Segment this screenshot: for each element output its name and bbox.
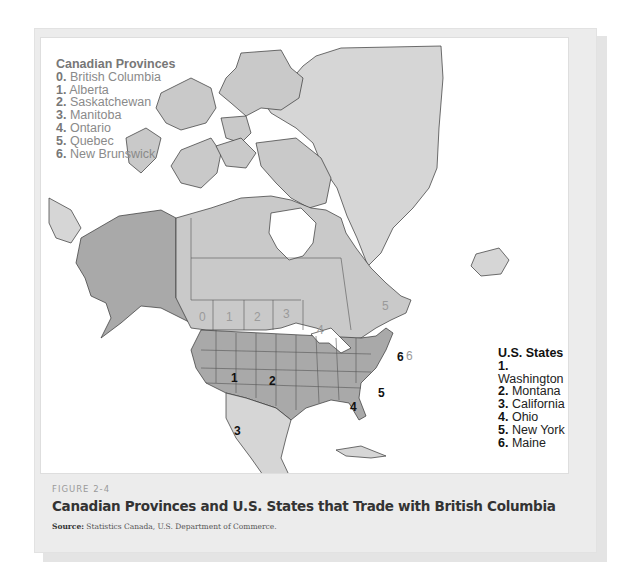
legend-item: 1. Washington	[498, 360, 568, 386]
map-label-new-york: 5	[378, 386, 385, 400]
map-label-montana: 2	[269, 374, 276, 388]
figure-source: Source: Statistics Canada, U.S. Departme…	[52, 522, 556, 531]
map-label-washington: 1	[231, 371, 238, 385]
legend-item: 6. Maine	[498, 437, 568, 450]
map-label-maine: 6	[397, 350, 404, 364]
legend-canadian-provinces: Canadian Provinces 0. British Columbia 1…	[56, 58, 176, 160]
map-label-manitoba: 3	[283, 307, 290, 321]
map-label-quebec: 5	[382, 299, 389, 313]
figure-title: Canadian Provinces and U.S. States that …	[52, 498, 556, 514]
legend-item: 6. New Brunswick	[56, 148, 176, 161]
cuba	[336, 446, 386, 458]
figure-label: FIGURE 2-4	[52, 484, 556, 494]
map-label-alberta: 1	[226, 310, 233, 324]
map-label-new-brunswick: 6	[406, 349, 413, 363]
map-label-saskatchewan: 2	[254, 310, 261, 324]
iceland	[471, 248, 509, 276]
russia-far-east	[49, 198, 81, 243]
legend-us-states: U.S. States 1. Washington 2. Montana 3. …	[498, 347, 568, 449]
map-label-ontario: 4	[317, 323, 324, 337]
usa	[191, 328, 393, 420]
map-label-ohio: 4	[350, 400, 357, 414]
map-label-bc: 0	[199, 310, 206, 324]
map-label-california: 3	[234, 424, 241, 438]
map: 0 1 2 3 4 5 6 1 2 3 4 5 6 Canadian Provi…	[40, 37, 569, 474]
figure-caption: FIGURE 2-4 Canadian Provinces and U.S. S…	[52, 484, 556, 531]
legend-title: U.S. States	[498, 347, 568, 360]
